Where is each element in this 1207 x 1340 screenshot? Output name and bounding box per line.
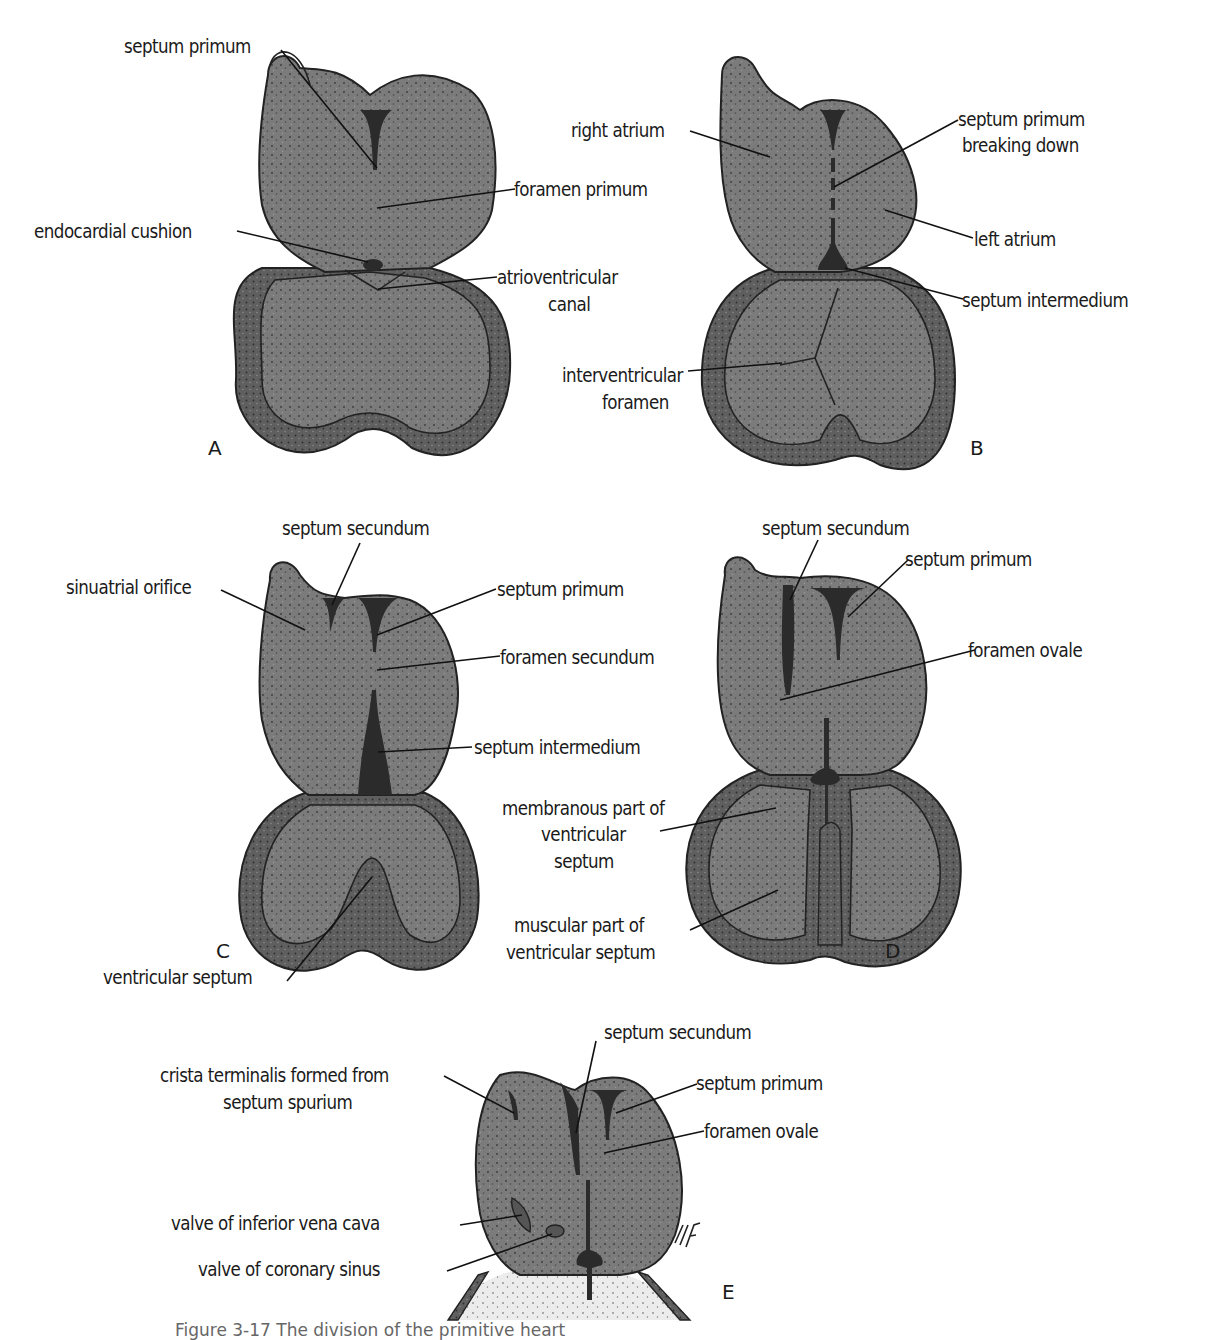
label-c-ventricular-septum: ventricular septum [103,965,252,989]
label-d-septum-primum: septum primum [905,547,1032,571]
label-a-endocardial-cushion: endocardial cushion [34,219,192,243]
panel-b-atrium [720,57,916,272]
panel-d-muscular-septum [818,823,842,946]
label-d-membranous-line2: ventricular [541,822,626,846]
panel-a-heart [234,52,510,455]
figure-caption: Figure 3-17 The division of the primitiv… [175,1320,565,1340]
panel-e-heart [448,1072,700,1320]
label-d-muscular-line1: muscular part of [514,913,644,937]
panel-letter-c: C [216,939,230,963]
label-a-av-canal-line2: canal [548,292,590,316]
label-d-membranous-line3: septum [554,849,614,873]
panel-b-heart [702,57,955,469]
label-d-membranous-line1: membranous part of [502,796,664,820]
label-e-crista-terminalis-line1: crista terminalis formed from [160,1063,389,1087]
panel-letter-b: B [970,436,984,460]
label-a-septum-primum: septum primum [124,34,251,58]
label-d-foramen-ovale: foramen ovale [968,638,1082,662]
panel-letter-e: E [722,1280,735,1304]
panel-letter-a: A [208,436,222,460]
label-c-sinuatrial-orifice: sinuatrial orifice [66,575,191,599]
panel-e-signature [675,1223,700,1247]
panel-d-heart [686,557,960,966]
label-b-septum-intermedium: septum intermedium [962,288,1128,312]
label-c-septum-secundum: septum secundum [282,516,429,540]
label-c-foramen-secundum: foramen secundum [500,645,654,669]
label-c-septum-primum: septum primum [497,577,624,601]
label-b-interventricular-foramen-line2: foramen [602,390,669,414]
panel-c-heart [239,562,478,970]
label-a-av-canal-line1: atrioventricular [497,265,618,289]
panel-b-ventricle-chamber [725,280,935,444]
panel-a-ventricle-chamber [261,272,490,433]
panel-letter-d: D [885,939,900,963]
leader-c-septum-secundum [332,543,360,605]
label-a-foramen-primum: foramen primum [514,177,648,201]
label-b-right-atrium: right atrium [571,118,664,142]
label-b-left-atrium: left atrium [974,227,1056,251]
label-b-interventricular-foramen-line1: interventricular [562,363,683,387]
label-b-septum-primum-breaking-line2: breaking down [962,133,1079,157]
label-b-septum-primum-breaking-line1: septum primum [958,107,1085,131]
label-e-valve-coronary-sinus: valve of coronary sinus [198,1257,380,1281]
label-e-foramen-ovale: foramen ovale [704,1119,818,1143]
label-e-septum-primum: septum primum [696,1071,823,1095]
label-e-valve-ivc: valve of inferior vena cava [171,1211,380,1235]
label-e-septum-secundum: septum secundum [604,1020,751,1044]
label-d-septum-secundum: septum secundum [762,516,909,540]
panel-a-atrium [259,56,495,272]
label-e-crista-terminalis-line2: septum spurium [223,1090,352,1114]
label-c-septum-intermedium: septum intermedium [474,735,640,759]
label-d-muscular-line2: ventricular septum [506,940,655,964]
panel-c-atrium [260,562,458,795]
